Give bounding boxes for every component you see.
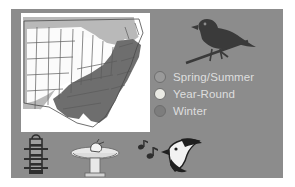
legend-item-year-round[interactable]: Year-Round — [154, 86, 279, 102]
bird-bath-icon[interactable] — [69, 137, 121, 177]
legend-item-spring-summer[interactable]: Spring/Summer — [154, 69, 279, 85]
us-range-map[interactable] — [21, 13, 150, 132]
legend-swatch-year-round — [154, 88, 166, 100]
singing-bird-svg — [159, 135, 203, 175]
bird-beak — [191, 25, 198, 30]
bird-svg — [174, 13, 260, 69]
range-map-canvas — [21, 13, 150, 132]
range-legend: Spring/Summer Year-Round Winter — [154, 69, 279, 120]
bird-bath-svg — [69, 137, 121, 177]
perched-bird-silhouette — [174, 13, 260, 69]
feeder-port-low — [30, 163, 42, 166]
note-small — [137, 140, 148, 150]
bird-attraction-icon-strip — [17, 129, 279, 177]
screenshot-root: Spring/Summer Year-Round Winter — [0, 0, 295, 187]
legend-label-winter: Winter — [173, 105, 207, 117]
singing-bird-icon[interactable] — [159, 135, 203, 175]
legend-swatch-spring-summer — [154, 71, 166, 83]
feeder-base — [29, 170, 43, 174]
bath-bird — [91, 143, 102, 152]
legend-swatch-winter — [154, 105, 166, 117]
bird-beak-open — [161, 149, 169, 155]
content-panel: Spring/Summer Year-Round Winter — [11, 9, 283, 178]
legend-item-winter[interactable]: Winter — [154, 103, 279, 119]
tube-feeder-icon[interactable] — [21, 131, 51, 177]
tube-feeder-svg — [21, 131, 51, 177]
legend-label-year-round: Year-Round — [173, 88, 235, 100]
note-large — [146, 147, 158, 160]
bath-foot — [85, 173, 105, 177]
bird-eye-dot — [174, 147, 177, 150]
feeder-port-mid — [30, 154, 42, 157]
bath-pedestal — [90, 158, 100, 174]
legend-label-spring-summer: Spring/Summer — [173, 71, 254, 83]
feeder-port-top — [30, 144, 42, 147]
bird-eye — [204, 23, 207, 26]
bird-legs — [210, 49, 222, 61]
bird-body — [198, 19, 256, 49]
